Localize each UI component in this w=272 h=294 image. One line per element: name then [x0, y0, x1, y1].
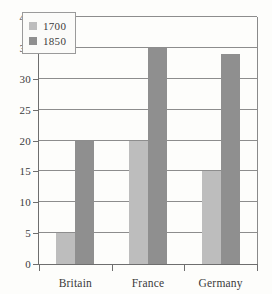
bar-chart-figure: 0510152025303540 BritainFranceGermany 17… [0, 0, 272, 294]
legend-item-1850: 1850 [29, 33, 66, 48]
y-axis-label-5: 5 [25, 227, 31, 239]
bar-germany-1850 [221, 54, 240, 264]
bar-france-1700 [129, 141, 148, 265]
y-axis-label-25: 25 [19, 103, 31, 115]
x-axis-label-france: France [132, 277, 165, 289]
x-axis-label-germany: Germany [199, 277, 243, 289]
bars-layer [39, 17, 257, 264]
x-axis-label-britain: Britain [59, 277, 92, 289]
legend-label-1700: 1700 [43, 20, 66, 32]
bar-germany-1700 [202, 171, 221, 264]
y-axis-label-10: 10 [19, 196, 31, 208]
y-axis-label-15: 15 [19, 165, 31, 177]
legend-label-1850: 1850 [43, 35, 66, 47]
legend-swatch-1700-icon [29, 22, 37, 30]
x-axis-separator-1 [112, 264, 113, 271]
y-axis-label-30: 30 [19, 73, 31, 85]
plot-area: 0510152025303540 BritainFranceGermany [38, 17, 258, 265]
chart-legend: 1700 1850 [22, 12, 76, 54]
legend-item-1700: 1700 [29, 18, 66, 33]
y-axis-label-20: 20 [19, 134, 31, 146]
x-axis-separator-end [257, 264, 258, 271]
bar-france-1850 [148, 48, 167, 264]
x-axis-separator-2 [184, 264, 185, 271]
y-axis-label-0: 0 [25, 258, 31, 270]
bar-britain-1700 [56, 233, 75, 264]
legend-swatch-1850-icon [29, 37, 37, 45]
x-axis-separator-0 [39, 264, 40, 271]
bar-britain-1850 [75, 141, 94, 265]
